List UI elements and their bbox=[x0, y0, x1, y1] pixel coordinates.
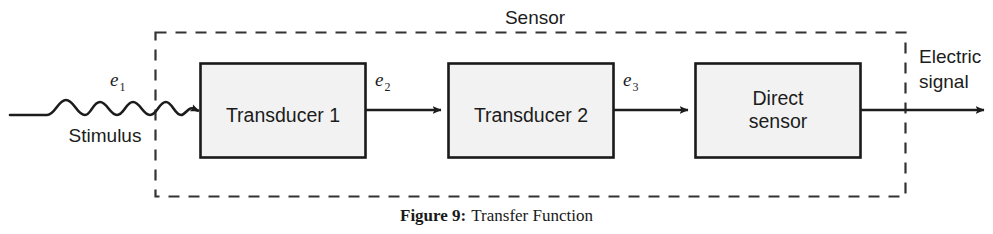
stimulus-wave-line bbox=[10, 100, 196, 115]
stimulus-label: Stimulus bbox=[69, 125, 142, 146]
block-direct-sensor-label-line1: Direct bbox=[753, 87, 805, 109]
output-label-line2: signal bbox=[919, 71, 969, 92]
sensor-enclosure-label: Sensor bbox=[505, 7, 566, 28]
figure-container: Sensor Stimulus e1 Transducer 1 e2 Trans… bbox=[0, 0, 993, 234]
block-transducer-2-label: Transducer 2 bbox=[474, 104, 588, 126]
block-direct-sensor-label-line2: sensor bbox=[749, 110, 808, 132]
output-label-line1: Electric bbox=[919, 46, 981, 67]
block-transducer-1-label: Transducer 1 bbox=[226, 104, 340, 126]
figure-caption-text: Transfer Function bbox=[471, 206, 593, 225]
signal-label-e2: e2 bbox=[375, 69, 390, 94]
stimulus-input-arrow bbox=[192, 108, 199, 111]
figure-caption-label: Figure 9: bbox=[400, 206, 466, 225]
signal-label-e1: e1 bbox=[110, 69, 125, 94]
block-diagram: Sensor Stimulus e1 Transducer 1 e2 Trans… bbox=[0, 0, 993, 234]
signal-label-e3: e3 bbox=[623, 69, 638, 94]
figure-caption: Figure 9:Transfer Function bbox=[0, 206, 993, 226]
